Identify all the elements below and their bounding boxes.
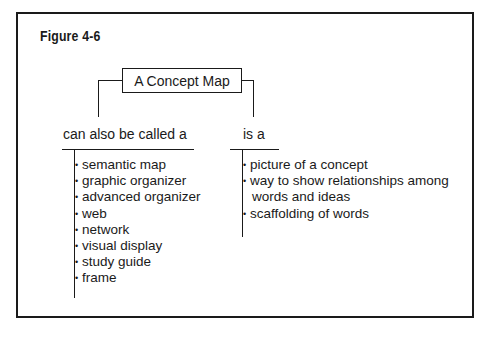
branch-underline-is-a — [230, 149, 279, 150]
list-item: •graphic organizer — [75, 173, 201, 189]
list-item: •frame — [75, 270, 201, 286]
list-item: •scaffolding of words — [243, 206, 449, 222]
left-connector-vertical — [98, 80, 99, 117]
figure-title: Figure 4-6 — [40, 27, 100, 44]
bullet-icon: • — [75, 238, 78, 254]
list-item-continuation: words and ideas — [243, 189, 449, 205]
list-also-called: •semantic map •graphic organizer •advanc… — [75, 157, 201, 287]
list-item: •advanced organizer — [75, 189, 201, 205]
list-item: •network — [75, 222, 201, 238]
bullet-icon: • — [75, 189, 78, 205]
bullet-icon: • — [75, 254, 78, 270]
bullet-icon: • — [75, 270, 78, 286]
left-connector-horizontal — [98, 80, 122, 81]
branch-heading-is-a: is a — [243, 126, 265, 142]
bullet-icon: • — [243, 173, 246, 189]
bullet-icon: • — [243, 157, 246, 173]
right-connector-vertical — [253, 80, 254, 117]
root-concept-node: A Concept Map — [122, 68, 242, 93]
bullet-icon: • — [75, 222, 78, 238]
root-concept-label: A Concept Map — [134, 73, 230, 89]
bullet-icon: • — [75, 173, 78, 189]
bullet-icon: • — [75, 157, 78, 173]
list-item: •picture of a concept — [243, 157, 449, 173]
list-item: •study guide — [75, 254, 201, 270]
bullet-icon: • — [243, 206, 246, 222]
list-item: •semantic map — [75, 157, 201, 173]
list-item: •web — [75, 206, 201, 222]
branch-heading-also-called: can also be called a — [63, 126, 187, 142]
branch-underline-also-called — [62, 149, 194, 150]
list-item: •visual display — [75, 238, 201, 254]
list-item: •way to show relationships among — [243, 173, 449, 189]
bullet-icon: • — [75, 206, 78, 222]
list-is-a: •picture of a concept •way to show relat… — [243, 157, 449, 222]
